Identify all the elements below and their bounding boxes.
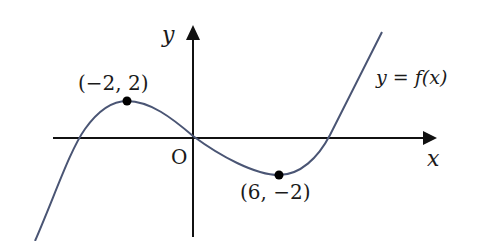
maximum-point	[123, 97, 132, 106]
origin-label: O	[171, 145, 187, 169]
curve-label: y = f(x)	[375, 66, 447, 88]
y-axis-arrow-icon	[186, 25, 200, 40]
minimum-point	[275, 171, 284, 180]
y-axis-label: y	[161, 22, 175, 47]
curve-y-equals-f-x	[35, 32, 382, 241]
x-axis-arrow-icon	[423, 131, 437, 145]
function-graph: y x O (−2, 2) (6, −2) y = f(x)	[0, 0, 481, 241]
maximum-point-label: (−2, 2)	[78, 71, 149, 95]
x-axis-label: x	[427, 146, 440, 171]
minimum-point-label: (6, −2)	[240, 180, 311, 204]
